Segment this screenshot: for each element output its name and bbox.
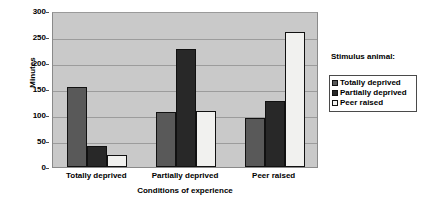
x-tick-label: Totally deprived [66, 171, 127, 180]
y-tick-label: 100 [16, 112, 46, 120]
y-tick-label: 150 [16, 86, 46, 94]
y-tick-label: 50 [16, 138, 46, 146]
legend-item: Partially deprived [332, 88, 414, 98]
legend-swatch-icon [332, 100, 338, 106]
bar [67, 87, 87, 167]
bar [176, 49, 196, 167]
bar [265, 101, 285, 167]
bar-series-container [53, 13, 317, 167]
y-tick-mark [46, 64, 49, 65]
y-axis-tick-labels: 050100150200250300 [16, 0, 46, 212]
legend-item: Totally deprived [332, 78, 414, 88]
bar-chart-figure: Minutes 050100150200250300 Totally depri… [0, 0, 421, 212]
x-axis-title: Conditions of experience [52, 186, 318, 195]
y-tick-mark [46, 12, 49, 13]
legend: Totally deprivedPartially deprivedPeer r… [329, 75, 417, 112]
bar [156, 112, 176, 167]
y-tick-mark [46, 38, 49, 39]
y-tick-mark [46, 142, 49, 143]
bar [87, 146, 107, 167]
legend-title: Stimulus animal: [331, 52, 395, 61]
y-tick-label: 250 [16, 34, 46, 42]
bar [285, 32, 305, 167]
x-axis-tick-labels: Totally deprivedPartially deprivedPeer r… [52, 171, 318, 185]
legend-label: Partially deprived [340, 88, 407, 98]
bar [196, 111, 216, 167]
y-tick-mark [46, 90, 49, 91]
legend-swatch-icon [332, 90, 338, 96]
y-tick-mark [46, 168, 49, 169]
y-tick-label: 200 [16, 60, 46, 68]
plot-area [52, 12, 318, 168]
x-tick-label: Peer raised [252, 171, 295, 180]
y-tick-label: 300 [16, 8, 46, 16]
y-tick-label: 0 [16, 164, 46, 172]
legend-item: Peer raised [332, 98, 414, 108]
legend-label: Peer raised [340, 98, 383, 108]
legend-label: Totally deprived [340, 78, 401, 88]
bar [107, 155, 127, 167]
x-tick-label: Partially deprived [152, 171, 219, 180]
bar [245, 118, 265, 167]
legend-swatch-icon [332, 80, 338, 86]
y-tick-mark [46, 116, 49, 117]
